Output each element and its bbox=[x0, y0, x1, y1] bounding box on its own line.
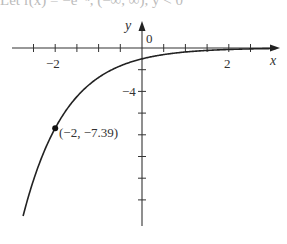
function-plot: y 0 x −2 2 −4 (−2, −7.39) bbox=[0, 0, 287, 244]
x-tick-label-neg2: −2 bbox=[46, 56, 60, 71]
point-marker bbox=[52, 125, 58, 131]
y-tick-label-neg4: −4 bbox=[122, 84, 136, 99]
y-axis-label: y bbox=[123, 18, 132, 33]
origin-label: 0 bbox=[146, 31, 153, 46]
y-axis bbox=[138, 21, 146, 226]
y-axis-arrow-icon bbox=[139, 21, 146, 31]
x-axis-label: x bbox=[269, 53, 277, 68]
point-annotation: (−2, −7.39) bbox=[59, 125, 118, 140]
x-tick-label-2: 2 bbox=[224, 56, 231, 71]
